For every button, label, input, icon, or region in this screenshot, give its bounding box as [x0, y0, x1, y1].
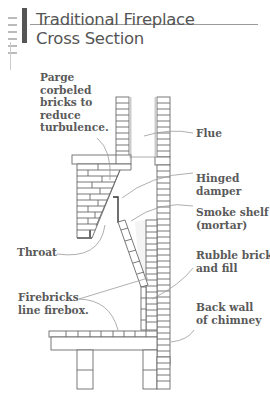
label-hinged-damper: Hinged damper	[196, 172, 241, 197]
hearth-slab	[51, 337, 157, 350]
label-throat: Throat	[17, 246, 57, 259]
hearth-firebrick-floor	[49, 331, 157, 337]
leader-back-wall	[171, 330, 194, 342]
mantel-slab	[72, 155, 131, 164]
label-back-wall-of-chimney: Back wall of chimney	[196, 301, 261, 326]
fireplace-cross-section-drawing	[0, 0, 270, 404]
front-flue-wall	[116, 97, 129, 158]
back-chimney-wall	[157, 165, 170, 365]
label-rubble-brick-fill: Rubble brick and fill	[196, 249, 270, 274]
label-firebricks-line-firebox: Firebricks line firebox.	[18, 291, 89, 316]
label-parge-corbeled-bricks: Parge corbeled bricks to reduce turbulen…	[40, 71, 109, 134]
support-piers	[77, 350, 170, 389]
hinged-damper	[113, 197, 124, 222]
label-flue: Flue	[196, 127, 222, 140]
leader-firebricks	[79, 278, 148, 299]
label-smoke-shelf: Smoke shelf (mortar)	[196, 206, 269, 231]
